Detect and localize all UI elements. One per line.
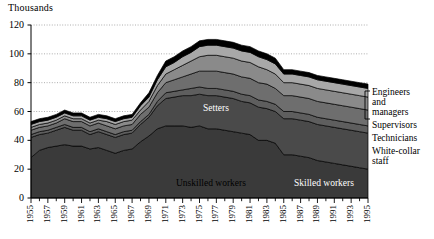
x-tick-label-1975: 1975 (195, 205, 204, 223)
x-tick-label-1955: 1955 (26, 205, 35, 223)
x-tick-label-1987: 1987 (296, 205, 305, 223)
x-tick-label-1969: 1969 (144, 205, 153, 223)
y-tick-label-60: 60 (0, 107, 24, 117)
band-label-setters: Setters (203, 103, 229, 113)
legend-label-supervisors: Supervisors (372, 121, 417, 131)
legend-label-white-collar-staff: White-collar staff (372, 147, 420, 167)
x-tick-label-1977: 1977 (211, 205, 220, 223)
band-label-unskilled-workers: Unskilled workers (176, 178, 246, 188)
chart-plot-area (0, 0, 434, 239)
x-tick-label-1979: 1979 (228, 205, 237, 223)
x-tick-label-1983: 1983 (262, 205, 271, 223)
x-tick-label-1971: 1971 (161, 205, 170, 223)
x-tick-label-1991: 1991 (329, 205, 338, 223)
x-tick-label-1961: 1961 (77, 205, 86, 223)
y-tick-label-40: 40 (0, 135, 24, 145)
x-tick-label-1965: 1965 (110, 205, 119, 223)
x-tick-label-1963: 1963 (93, 205, 102, 223)
x-tick-label-1985: 1985 (279, 205, 288, 223)
legend-label-engineers-and-managers: Engineers and managers (372, 88, 410, 117)
y-tick-label-0: 0 (0, 193, 24, 203)
x-tick-label-1957: 1957 (43, 205, 52, 223)
x-tick-label-1981: 1981 (245, 205, 254, 223)
x-tick-label-1959: 1959 (60, 205, 69, 223)
y-tick-label-20: 20 (0, 164, 24, 174)
stacked-area-chart: Thousands 020406080100120 19551957195919… (0, 0, 434, 239)
x-tick-label-1967: 1967 (127, 205, 136, 223)
legend-label-technicians: Technicians (372, 134, 417, 144)
x-tick-label-1973: 1973 (178, 205, 187, 223)
y-tick-label-80: 80 (0, 78, 24, 88)
band-label-skilled-workers: Skilled workers (294, 178, 354, 188)
y-tick-label-120: 120 (0, 20, 24, 30)
y-tick-label-100: 100 (0, 49, 24, 59)
x-tick-label-1993: 1993 (346, 205, 355, 223)
x-tick-label-1989: 1989 (312, 205, 321, 223)
x-tick-label-1995: 1995 (363, 205, 372, 223)
